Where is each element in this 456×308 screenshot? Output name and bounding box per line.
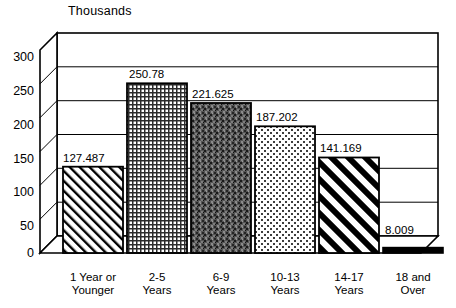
bar-6-9-years [191, 103, 251, 253]
bar-chart: Thousands [0, 0, 456, 308]
xtick-line-2: Years [313, 284, 385, 297]
ytick-label-0: 0 [0, 246, 34, 260]
value-label-14-17-years: 141.169 [320, 143, 384, 155]
ytick-label-150: 150 [0, 152, 34, 166]
bar-10-13-years [255, 126, 315, 253]
value-label-6-9-years: 221.625 [192, 89, 256, 101]
xtick-label-6-9-years: 6-9 Years [185, 271, 257, 296]
xtick-line-1: 14-17 [313, 271, 385, 284]
ytick-label-100: 100 [0, 185, 34, 199]
xtick-line-1: 1 Year or [57, 271, 129, 284]
ytick-label-300: 300 [0, 50, 34, 64]
xtick-label-10-13-years: 10-13 Years [249, 271, 321, 296]
xtick-line-1: 18 and [377, 271, 449, 284]
bar-18-and-over [383, 248, 443, 253]
xtick-line-1: 2-5 [121, 271, 193, 284]
ytick-label-250: 250 [0, 84, 34, 98]
xtick-line-2: Years [185, 284, 257, 297]
value-label-18-and-over: 8.009 [385, 225, 449, 237]
xtick-line-2: Years [121, 284, 193, 297]
xtick-label-14-17-years: 14-17 Years [313, 271, 385, 296]
bar-1-year-or-younger [63, 167, 123, 253]
xtick-line-1: 6-9 [185, 271, 257, 284]
xtick-line-2: Over [377, 284, 449, 297]
value-label-1-year-or-younger: 127.487 [63, 153, 127, 165]
value-label-10-13-years: 187.202 [256, 112, 320, 124]
bar-14-17-years [319, 158, 379, 254]
value-label-2-5-years: 250.78 [129, 69, 193, 81]
ytick-label-200: 200 [0, 118, 34, 132]
xtick-line-1: 10-13 [249, 271, 321, 284]
xtick-label-1-year-or-younger: 1 Year or Younger [57, 271, 129, 296]
ytick-label-50: 50 [0, 219, 34, 233]
xtick-label-18-and-over: 18 and Over [377, 271, 449, 296]
xtick-line-2: Younger [57, 284, 129, 297]
bar-2-5-years [127, 83, 187, 253]
xtick-line-2: Years [249, 284, 321, 297]
xtick-label-2-5-years: 2-5 Years [121, 271, 193, 296]
